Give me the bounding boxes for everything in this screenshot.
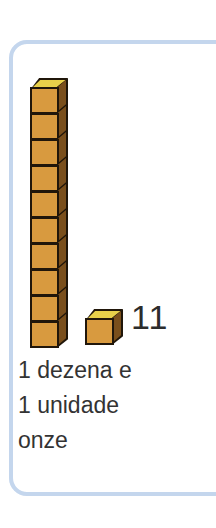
caption: 1 dezena e 1 unidade onze — [18, 353, 208, 458]
page-root: 11 1 dezena e 1 unidade onze — [0, 0, 216, 528]
rod-cube — [30, 312, 68, 348]
count-label: 11 — [131, 300, 168, 334]
caption-line-1: 1 dezena e — [18, 353, 208, 388]
cube-front-face — [85, 318, 114, 345]
cube-front-face — [30, 321, 59, 348]
caption-line-3: onze — [18, 423, 208, 458]
caption-line-2: 1 unidade — [18, 388, 208, 423]
unit-cube-body — [85, 309, 123, 345]
